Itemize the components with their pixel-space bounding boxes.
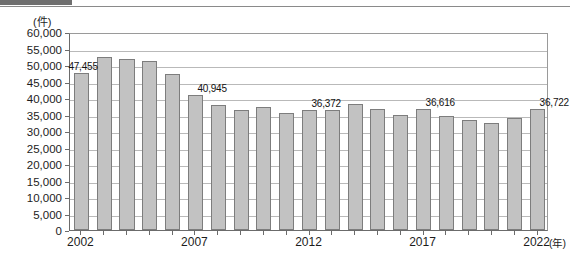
x-axis-tick-label: 2012 bbox=[295, 236, 322, 249]
bar bbox=[97, 57, 112, 230]
x-axis-tick-mark bbox=[217, 231, 218, 235]
plot-area bbox=[69, 33, 548, 231]
bar bbox=[348, 104, 363, 230]
x-axis-tick-mark bbox=[400, 231, 401, 235]
bar bbox=[484, 123, 499, 230]
x-axis-tick-mark bbox=[149, 231, 150, 235]
x-axis-tick-mark bbox=[172, 231, 173, 235]
bar bbox=[188, 95, 203, 230]
bar bbox=[393, 115, 408, 230]
bar bbox=[142, 61, 157, 230]
bar bbox=[119, 59, 134, 230]
y-axis-tick-label: 30,000 bbox=[0, 127, 62, 139]
data-value-label: 40,945 bbox=[197, 84, 226, 94]
bar bbox=[211, 105, 226, 230]
x-axis-tick-mark bbox=[286, 231, 287, 235]
bar bbox=[439, 116, 454, 230]
bar bbox=[370, 109, 385, 230]
bar bbox=[462, 120, 477, 230]
x-axis-tick-mark bbox=[240, 231, 241, 235]
bar bbox=[507, 118, 522, 230]
bar bbox=[234, 110, 249, 230]
y-axis-tick-label: 20,000 bbox=[0, 160, 62, 172]
bar bbox=[416, 109, 431, 230]
x-axis-tick-label: 2017 bbox=[409, 236, 436, 249]
bar-series bbox=[70, 34, 547, 230]
y-axis-tick-label: 60,000 bbox=[0, 28, 62, 40]
data-value-label: 36,722 bbox=[540, 98, 569, 108]
x-axis-tick-label: 2002 bbox=[67, 236, 94, 249]
data-value-label: 36,616 bbox=[426, 98, 455, 108]
y-axis-tick-label: 40,000 bbox=[0, 94, 62, 106]
x-axis-tick-mark bbox=[491, 231, 492, 235]
y-axis-tick-label: 25,000 bbox=[0, 144, 62, 156]
x-axis-tick-mark bbox=[354, 231, 355, 235]
bar bbox=[302, 110, 317, 230]
y-axis-tick-label: 10,000 bbox=[0, 193, 62, 205]
bar bbox=[530, 109, 545, 230]
x-axis-tick-label: 2022 bbox=[523, 236, 550, 249]
x-axis-tick-mark bbox=[126, 231, 127, 235]
x-axis-tick-mark bbox=[468, 231, 469, 235]
y-axis-tick-mark bbox=[65, 231, 69, 232]
y-axis-tick-label: 45,000 bbox=[0, 78, 62, 90]
y-axis-tick-label: 15,000 bbox=[0, 177, 62, 189]
data-value-label: 47,455 bbox=[68, 62, 97, 72]
bar bbox=[256, 107, 271, 230]
bar bbox=[325, 110, 340, 230]
bar bbox=[74, 73, 89, 230]
x-axis-tick-mark bbox=[514, 231, 515, 235]
y-axis-tick-label: 5,000 bbox=[0, 210, 62, 222]
x-axis-tick-label: 2007 bbox=[181, 236, 208, 249]
bar-chart: (件) 60,00055,00050,00045,00040,00035,000… bbox=[0, 0, 570, 258]
x-axis-tick-mark bbox=[377, 231, 378, 235]
data-value-label: 36,372 bbox=[312, 99, 341, 109]
y-axis-tick-label: 35,000 bbox=[0, 111, 62, 123]
x-axis-tick-mark bbox=[445, 231, 446, 235]
y-axis-tick-label: 50,000 bbox=[0, 61, 62, 73]
y-axis-tick-label: 0 bbox=[0, 226, 62, 238]
x-axis-tick-mark bbox=[263, 231, 264, 235]
x-axis-tick-mark bbox=[103, 231, 104, 235]
x-axis-tick-mark bbox=[331, 231, 332, 235]
bar bbox=[279, 113, 294, 230]
y-axis-tick-label: 55,000 bbox=[0, 45, 62, 57]
x-axis-unit-label: (年) bbox=[549, 237, 566, 250]
bar bbox=[165, 74, 180, 230]
